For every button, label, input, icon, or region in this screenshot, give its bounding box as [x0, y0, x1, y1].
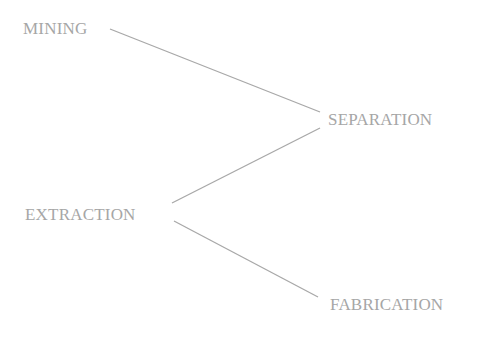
connector-lines [0, 0, 495, 344]
node-mining: MINING [23, 20, 87, 37]
edge-separation-extraction [172, 128, 320, 203]
edge-mining-separation [110, 29, 320, 112]
node-fabrication: FABRICATION [330, 296, 443, 313]
process-diagram: MINING SEPARATION EXTRACTION FABRICATION [0, 0, 495, 344]
node-separation: SEPARATION [328, 111, 432, 128]
node-extraction: EXTRACTION [25, 206, 136, 223]
edge-extraction-fabrication [174, 221, 318, 297]
